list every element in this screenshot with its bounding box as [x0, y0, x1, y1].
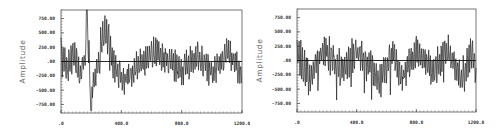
y-tick-label: 500.00 [38, 30, 55, 35]
signal-line [297, 35, 476, 100]
chart-canvas-left: .0400.0800.01200.0750.00500.00250.00.00-… [0, 0, 250, 134]
y-tick-label: -500.00 [36, 88, 56, 93]
y-tick-label: 500.00 [274, 29, 291, 34]
x-tick-label: 1200.0 [234, 121, 250, 126]
amplitude-chart-left: .0400.0800.01200.0750.00500.00250.00.00-… [0, 0, 250, 134]
x-tick-label: 400.0 [114, 121, 128, 126]
x-tick-label: 800.0 [409, 120, 423, 125]
amplitude-chart-right: .0400.0800.01200.0750.00500.00250.00.00-… [250, 0, 499, 134]
y-tick-label: -250.00 [36, 73, 56, 78]
y-tick-label: 250.00 [274, 44, 291, 49]
y-axis-label: Amplitude [255, 39, 264, 83]
x-tick-label: 1200.0 [468, 120, 485, 125]
x-tick-label: 400.0 [350, 120, 364, 125]
y-tick-label: -250.00 [272, 72, 292, 77]
y-tick-label: -750.00 [36, 102, 56, 107]
y-tick-label: 250.00 [38, 45, 55, 50]
y-tick-label: .00 [283, 58, 292, 63]
y-tick-label: -750.00 [272, 101, 292, 106]
x-tick-label: .0 [294, 120, 300, 125]
y-tick-label: 750.00 [274, 15, 291, 20]
y-tick-label: -500.00 [272, 87, 292, 92]
signal-line [61, 10, 242, 111]
x-tick-label: 800.0 [175, 121, 189, 126]
x-tick-label: .0 [58, 121, 64, 126]
y-tick-label: .00 [47, 59, 56, 64]
y-axis-label: Amplitude [18, 40, 27, 84]
chart-canvas-right: .0400.0800.01200.0750.00500.00250.00.00-… [250, 0, 499, 134]
y-tick-label: 750.00 [38, 16, 55, 21]
